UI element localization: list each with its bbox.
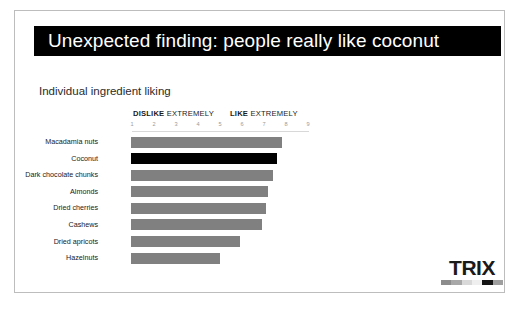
bar-chart: DISLIKE EXTREMELY LIKE EXTREMELY 1234567… [15,11,504,292]
axis-tick-1: 1 [130,121,133,127]
axis-anchor-like-rest: EXTREMELY [250,109,297,118]
bar-cashews [131,219,262,230]
bar-dried-apricots [131,236,240,247]
trix-wordmark: TRIX [441,257,503,278]
bar-row: Hazelnuts [15,251,504,268]
bar-label: Dried cherries [53,203,98,212]
axis-tick-2: 2 [152,121,155,127]
axis-anchor-dislike: DISLIKE EXTREMELY [133,109,214,118]
bar-label: Almonds [70,187,98,196]
bar-label: Cashews [68,220,98,229]
axis-tick-7: 7 [262,121,265,127]
bar-row: Cashews [15,218,504,235]
bar-label: Macadamia nuts [45,137,98,146]
logo-swatch-1 [441,280,451,285]
logo-swatch-5 [482,280,492,285]
axis-anchor-dislike-bold: DISLIKE [133,109,164,118]
bar-row: Almonds [15,185,504,202]
bar-label: Dried apricots [54,237,98,246]
axis-baseline [132,131,309,132]
logo-swatch-3 [462,280,472,285]
logo-swatch-4 [472,280,482,285]
axis-tick-9: 9 [306,121,309,127]
bar-label: Dark chocolate chunks [25,170,98,179]
axis-anchor-like: LIKE EXTREMELY [230,109,298,118]
bar-dried-cherries [131,203,266,214]
bar-almonds [131,186,268,197]
bar-hazelnuts [131,253,220,264]
bar-coconut [131,153,277,164]
bar-label: Hazelnuts [66,253,98,262]
axis-tick-6: 6 [240,121,243,127]
bar-macadamia-nuts [131,137,282,148]
axis-tick-4: 4 [196,121,199,127]
bar-dark-chocolate-chunks [131,170,273,181]
axis-tick-8: 8 [284,121,287,127]
axis-anchor-like-bold: LIKE [230,109,248,118]
slide-frame: Unexpected finding: people really like c… [14,10,505,293]
axis-anchor-dislike-rest: EXTREMELY [167,109,214,118]
bar-row: Dried apricots [15,235,504,252]
axis-tick-3: 3 [174,121,177,127]
trix-logo: TRIX [441,257,503,285]
page-bottom-fragment [10,307,120,314]
trix-swatch-bar [441,280,503,285]
bar-group: Macadamia nutsCoconutDark chocolate chun… [15,135,504,268]
bar-label: Coconut [71,154,98,163]
bar-row: Coconut [15,152,504,169]
bar-row: Dried cherries [15,201,504,218]
axis-tick-row: 123456789 [132,121,308,131]
logo-swatch-6 [493,280,503,285]
bar-row: Dark chocolate chunks [15,168,504,185]
bar-row: Macadamia nuts [15,135,504,152]
axis-tick-5: 5 [218,121,221,127]
logo-swatch-2 [451,280,461,285]
